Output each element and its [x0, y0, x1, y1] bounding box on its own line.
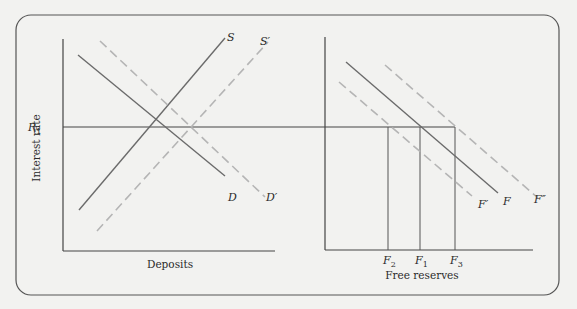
right-panel: F′ F F″ F2 F1 F3 Free reserves	[325, 37, 547, 281]
demand-curve-d	[78, 55, 225, 176]
label-s-prime: S′	[260, 35, 271, 48]
left-panel: S S′ D D′ R1 Interest rate Deposits	[27, 31, 455, 270]
demand-curve-d-prime	[100, 41, 265, 197]
tick-f3: F3	[449, 254, 463, 269]
free-reserves-curve-f-prime	[339, 82, 472, 196]
tick-f1: F1	[414, 254, 428, 269]
label-d: D	[227, 191, 237, 204]
left-y-axis-label: Interest rate	[30, 114, 42, 181]
label-d-prime: D′	[265, 191, 278, 204]
tick-f2: F2	[382, 254, 396, 269]
supply-curve-s	[79, 38, 225, 210]
supply-curve-s-prime	[97, 42, 268, 231]
frame-border	[16, 15, 559, 295]
left-x-axis-label: Deposits	[147, 258, 193, 270]
right-x-axis-label: Free reserves	[385, 269, 458, 281]
diagram-canvas: S S′ D D′ R1 Interest rate Deposits F′ F…	[0, 0, 577, 309]
label-f: F	[502, 195, 511, 208]
free-reserves-curve-f-double-prime	[385, 65, 538, 198]
label-f-prime: F′	[477, 198, 489, 211]
label-s: S	[227, 31, 235, 44]
label-f-double-prime: F″	[533, 193, 547, 206]
